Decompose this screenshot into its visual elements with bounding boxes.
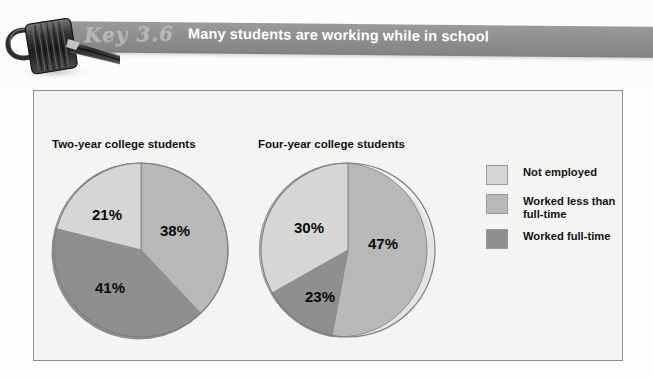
legend-item-worked-full-time: Worked full-time [486,228,616,249]
pie-label-two-year-full-time: 41% [95,279,125,296]
legend-item-not-employed: Not employed [486,164,616,185]
pie-label-two-year-not-employed: 21% [92,206,122,223]
legend-label-worked-full-time: Worked full-time [523,228,610,243]
pie-label-two-year-worked-less: 38% [160,222,190,239]
pie-label-four-year-not-employed: 30% [294,219,324,236]
legend-swatch-not-employed [486,165,508,185]
banner-title: Many students are working while in schoo… [188,26,489,45]
legend-label-not-employed: Not employed [523,164,597,179]
pie-title-two-year: Two-year college students [52,138,196,150]
chart-legend: Not employed Worked less than full-time … [486,164,616,257]
pie-chart-four-year [257,159,439,341]
pie-label-four-year-full-time: 23% [305,288,335,305]
pie-title-four-year: Four-year college students [258,138,405,150]
legend-label-worked-less-than-full-time: Worked less than full-time [523,193,616,220]
banner-area: Key 3.6 Many students are working while … [0,0,653,86]
key-photo-icon [2,6,122,82]
pie-chart-two-year [50,159,232,341]
pie-label-four-year-worked-less: 47% [368,235,398,252]
legend-swatch-worked-full-time [486,229,508,249]
legend-swatch-worked-less-than-full-time [486,194,508,214]
legend-item-worked-less-than-full-time: Worked less than full-time [486,193,616,220]
